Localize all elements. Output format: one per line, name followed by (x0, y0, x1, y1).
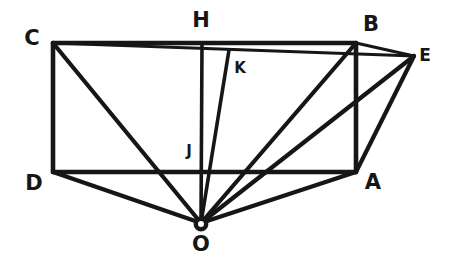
vertex-label-e: E (419, 47, 431, 64)
vertex-label-a: A (365, 172, 381, 193)
vertex-label-b: B (363, 14, 379, 35)
marker-layer (196, 219, 206, 229)
vertex-label-c: C (24, 28, 39, 49)
vertex-label-k: K (234, 61, 246, 76)
vertex-label-d: D (25, 173, 42, 194)
vertex-label-h: H (192, 10, 210, 31)
vertex-label-o: O (192, 234, 210, 255)
point-O-marker (196, 219, 206, 229)
diagram-canvas (0, 0, 452, 278)
geometry-diagram: CHBEKJDAO (0, 0, 452, 278)
vertex-label-j: J (186, 144, 192, 159)
edge-H-O (201, 43, 202, 223)
